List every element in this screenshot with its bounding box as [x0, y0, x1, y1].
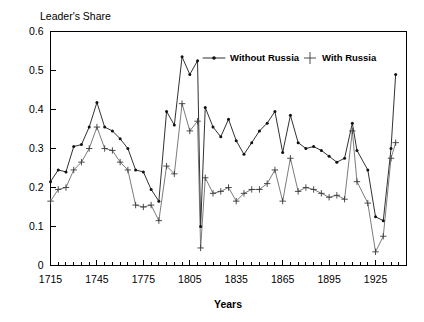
y-tick-label: 0.2	[29, 181, 44, 193]
data-point-marker	[235, 139, 238, 142]
x-tick-labels: 17151745177518051835186518951925	[39, 273, 388, 285]
data-point-marker	[374, 215, 377, 218]
data-point-marker	[134, 168, 137, 171]
data-point-marker	[95, 101, 98, 104]
data-point-marker	[343, 157, 346, 160]
legend-label-with-russia: With Russia	[322, 52, 377, 63]
data-point-marker	[212, 126, 215, 129]
x-tick-label: 1925	[364, 273, 388, 285]
data-point-marker	[49, 180, 52, 183]
legend-item-without-russia: Without Russia	[203, 52, 300, 63]
chart-svg: 00.10.20.30.40.50.6 17151745177518051835…	[0, 0, 424, 322]
markers-group	[47, 55, 399, 255]
data-point-marker	[80, 143, 83, 146]
data-point-marker	[366, 168, 369, 171]
y-tick-labels: 00.10.20.30.40.50.6	[29, 25, 44, 271]
x-tick-label: 1865	[271, 273, 295, 285]
data-point-marker	[57, 168, 60, 171]
data-point-marker	[126, 147, 129, 150]
data-point-marker	[273, 110, 276, 113]
data-point-marker	[328, 155, 331, 158]
legend-item-with-russia: With Russia	[304, 52, 377, 64]
series-group	[51, 57, 396, 252]
x-tick-label: 1835	[225, 273, 249, 285]
data-point-marker	[335, 161, 338, 164]
legend-label-without-russia: Without Russia	[230, 52, 300, 63]
data-point-marker	[297, 141, 300, 144]
x-tick-label: 1745	[85, 273, 109, 285]
y-tick-label: 0	[38, 259, 44, 271]
data-point-marker	[281, 151, 284, 154]
data-point-marker	[250, 141, 253, 144]
y-tick-label: 0.6	[29, 25, 44, 37]
data-point-marker	[150, 188, 153, 191]
data-point-marker	[173, 124, 176, 127]
data-point-marker	[199, 225, 202, 228]
data-point-marker	[204, 106, 207, 109]
data-point-marker	[64, 170, 67, 173]
data-point-marker	[355, 149, 358, 152]
data-point-marker	[111, 129, 114, 132]
x-axis-title: Years	[214, 298, 242, 310]
x-tick-label: 1715	[39, 273, 63, 285]
data-point-marker	[181, 55, 184, 58]
data-point-marker	[103, 126, 106, 129]
data-point-marker	[196, 59, 199, 62]
data-point-marker	[320, 149, 323, 152]
data-point-marker	[242, 153, 245, 156]
legend-dot-icon	[212, 56, 216, 60]
chart-legend: Without Russia With Russia	[203, 52, 377, 64]
data-point-marker	[266, 122, 269, 125]
data-point-marker	[157, 200, 160, 203]
data-point-marker	[258, 129, 261, 132]
data-point-marker	[390, 147, 393, 150]
y-tick-label: 0.4	[29, 103, 44, 115]
data-point-marker	[88, 126, 91, 129]
data-point-marker	[219, 135, 222, 138]
x-tick-label: 1775	[132, 273, 156, 285]
data-point-marker	[351, 122, 354, 125]
data-point-marker	[119, 137, 122, 140]
data-point-marker	[165, 110, 168, 113]
chart-title: Leader's Share	[40, 10, 111, 22]
chart-figure: 00.10.20.30.40.50.6 17151745177518051835…	[0, 0, 424, 322]
y-tick-label: 0.3	[29, 142, 44, 154]
data-point-marker	[394, 73, 397, 76]
data-point-marker	[304, 147, 307, 150]
data-point-marker	[188, 73, 191, 76]
data-point-marker	[142, 170, 145, 173]
data-point-marker	[312, 145, 315, 148]
data-point-marker	[289, 114, 292, 117]
x-tick-label: 1895	[317, 273, 341, 285]
data-point-marker	[382, 219, 385, 222]
data-point-marker	[227, 118, 230, 121]
data-point-marker	[72, 145, 75, 148]
y-tick-label: 0.5	[29, 64, 44, 76]
series-line-with-russia	[51, 104, 396, 252]
x-tick-label: 1805	[178, 273, 202, 285]
y-tick-label: 0.1	[29, 220, 44, 232]
